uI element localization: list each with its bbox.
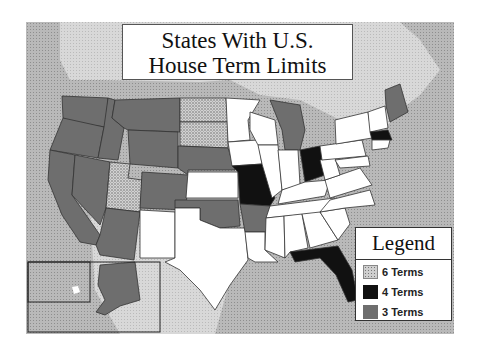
state-mississippi [265,216,285,258]
state-massachusetts [370,130,392,140]
legend-title: Legend [356,228,451,260]
black-swatch-icon [363,285,378,299]
legend-item-3-terms: 3 Terms [363,303,451,320]
hawaii-inset-frame [28,262,90,302]
state-iowa [228,140,262,166]
legend-label: 3 Terms [382,306,423,318]
state-nebraska [178,146,235,175]
map-title: States With U.S. House Term Limits [122,24,353,80]
speckled-swatch-icon [363,265,378,279]
gray-swatch-icon [363,305,378,319]
legend-label: 6 Terms [382,266,423,278]
state-connecticut-ri [372,140,390,150]
state-new-mexico [140,210,175,258]
state-indiana [278,150,300,190]
state-south-dakota [180,122,228,148]
legend: Legend 6 Terms 4 Terms 3 Terms [355,227,452,321]
state-florida [290,246,358,302]
title-line-2: House Term Limits [123,53,352,78]
title-line-1: States With U.S. [123,28,352,53]
state-wyoming [128,130,178,168]
state-utah [106,162,142,212]
legend-label: 4 Terms [382,286,423,298]
state-hawaii [72,286,80,294]
state-montana [112,98,180,132]
state-north-dakota [180,98,228,122]
legend-item-6-terms: 6 Terms [363,263,451,280]
state-kansas [186,172,238,198]
legend-item-4-terms: 4 Terms [363,283,451,300]
